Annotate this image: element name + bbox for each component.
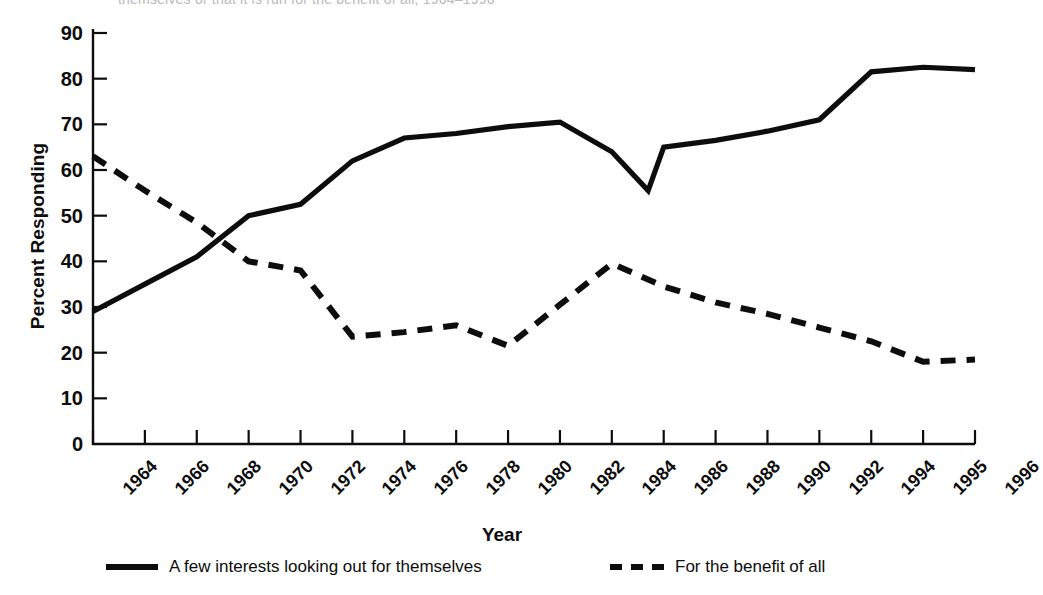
dashed-line-swatch [610,564,664,570]
chart-legend: A few interests looking out for themselv… [0,556,1004,590]
legend-item-solid: A few interests looking out for themselv… [106,556,482,578]
series-line-dashed [93,156,975,361]
legend-label-solid: A few interests looking out for themselv… [169,556,482,578]
legend-label-dashed: For the benefit of all [675,556,825,578]
legend-item-dashed: For the benefit of all [610,556,825,578]
x-tick-label-1996: 1996 [1001,456,1043,499]
series-line-solid [93,67,975,311]
solid-line-swatch [106,564,158,570]
